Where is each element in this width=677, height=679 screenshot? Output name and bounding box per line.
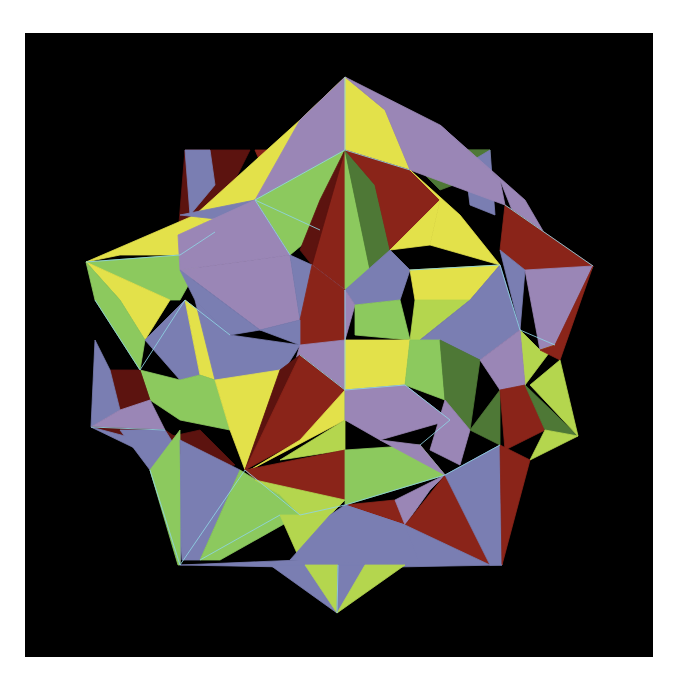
face-green	[355, 300, 410, 340]
polyhedron-faces	[86, 77, 593, 613]
face-red	[500, 205, 593, 270]
face-red	[500, 445, 530, 565]
polyhedron-compound-render	[0, 0, 677, 679]
face-lime	[530, 430, 578, 460]
face-red	[500, 385, 545, 450]
face-yellow	[345, 340, 410, 390]
